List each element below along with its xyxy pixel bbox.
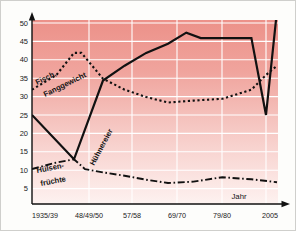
y-tick-label: 20 <box>20 129 28 138</box>
y-tick-label: 40 <box>20 55 28 64</box>
x-tick-label: 69/70 <box>168 211 186 220</box>
y-tick-label: 15 <box>20 147 28 156</box>
x-tick-label: 79/80 <box>213 211 231 220</box>
y-tick-label: 45 <box>20 37 28 46</box>
y-tick-label: 35 <box>20 74 28 83</box>
chart-svg: 50 45 40 35 30 25 20 15 10 5 1935/39 48/… <box>1 1 296 231</box>
chart-figure: 50 45 40 35 30 25 20 15 10 5 1935/39 48/… <box>1 1 296 231</box>
y-tick-label: 5 <box>24 184 28 193</box>
plot-background <box>32 20 278 204</box>
figure-frame: 50 45 40 35 30 25 20 15 10 5 1935/39 48/… <box>0 0 296 231</box>
y-tick-label: 25 <box>20 111 28 120</box>
y-tick-labels: 50 45 40 35 30 25 20 15 10 5 <box>20 19 28 194</box>
y-tick-label: 10 <box>20 166 28 175</box>
x-axis-arrow-icon <box>282 201 291 208</box>
x-tick-label: 1935/39 <box>32 211 58 220</box>
y-axis-arrow-icon <box>29 12 35 21</box>
x-tick-label: 2005 <box>262 211 278 220</box>
y-tick-label: 50 <box>20 19 28 28</box>
y-tick-label: 30 <box>20 92 28 101</box>
x-tick-labels: 1935/39 48/49/50 57/58 69/70 79/80 2005 <box>32 211 278 220</box>
x-axis-title: Jahr <box>231 192 247 201</box>
x-tick-label: 57/58 <box>123 211 141 220</box>
x-tick-label: 48/49/50 <box>75 211 103 220</box>
